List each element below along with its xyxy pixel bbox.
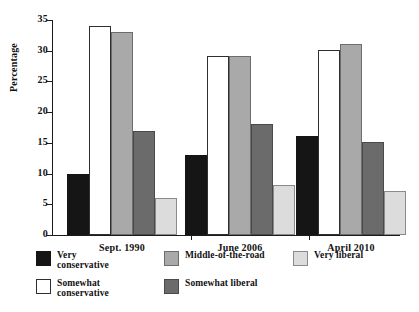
bar[interactable] <box>67 174 89 235</box>
bar[interactable] <box>207 56 229 235</box>
bar[interactable] <box>229 56 251 235</box>
y-axis-tick-label: 20 <box>38 105 48 116</box>
bar[interactable] <box>384 191 406 235</box>
bar[interactable] <box>296 136 318 235</box>
bar[interactable] <box>111 32 133 235</box>
y-axis-tick-label: 25 <box>38 74 48 85</box>
y-axis-title: Percentage <box>8 43 19 92</box>
bar[interactable] <box>133 131 155 235</box>
x-axis-group-tick <box>191 235 192 240</box>
legend-column: Middle-of-the-roadSomewhat liberal <box>164 250 265 306</box>
bar-group <box>185 20 295 235</box>
bar[interactable] <box>185 155 207 235</box>
legend-item[interactable]: Somewhat liberal <box>164 278 265 300</box>
legend-swatch <box>164 279 179 294</box>
bar[interactable] <box>273 185 295 235</box>
bar[interactable] <box>89 26 111 235</box>
bar[interactable] <box>251 124 273 235</box>
legend-item[interactable]: Very conservative <box>36 250 109 272</box>
legend-swatch <box>164 251 179 266</box>
legend-label: Somewhat liberal <box>185 278 258 288</box>
y-axis-line <box>52 20 53 236</box>
legend-swatch <box>293 251 308 266</box>
legend-item[interactable]: Somewhat conservative <box>36 278 109 300</box>
y-axis-tick-label: 15 <box>38 136 48 147</box>
y-axis-tick-label: 10 <box>38 167 48 178</box>
legend-item[interactable]: Middle-of-the-road <box>164 250 265 272</box>
y-axis-tick-label: 0 <box>43 228 48 239</box>
bar[interactable] <box>362 142 384 235</box>
legend-column: Very conservativeSomewhat conservative <box>36 250 109 306</box>
x-axis-line <box>52 235 400 236</box>
bar[interactable] <box>155 198 177 235</box>
legend-label: Very liberal <box>314 250 363 260</box>
legend-swatch <box>36 279 51 294</box>
y-axis-tick-label: 30 <box>38 44 48 55</box>
legend-item[interactable]: Very liberal <box>293 250 363 272</box>
legend-label: Middle-of-the-road <box>185 250 265 260</box>
y-axis-tick-label: 35 <box>38 13 48 24</box>
y-axis-tick-label: 5 <box>43 197 48 208</box>
x-axis-group-tick <box>309 235 310 240</box>
legend-label: Somewhat conservative <box>57 278 109 298</box>
bar[interactable] <box>318 50 340 235</box>
plot-area: 05101520253035 Sept. 1990June 2006April … <box>52 20 400 236</box>
bar-chart-figure: Percentage 05101520253035 Sept. 1990June… <box>0 0 419 312</box>
legend-label: Very conservative <box>57 250 109 270</box>
bar[interactable] <box>340 44 362 235</box>
bar-group <box>296 20 406 235</box>
legend-column: Very liberal <box>293 250 363 278</box>
bar-group <box>67 20 177 235</box>
legend-swatch <box>36 251 51 266</box>
chart-legend: Very conservativeSomewhat conservativeMi… <box>36 250 406 306</box>
